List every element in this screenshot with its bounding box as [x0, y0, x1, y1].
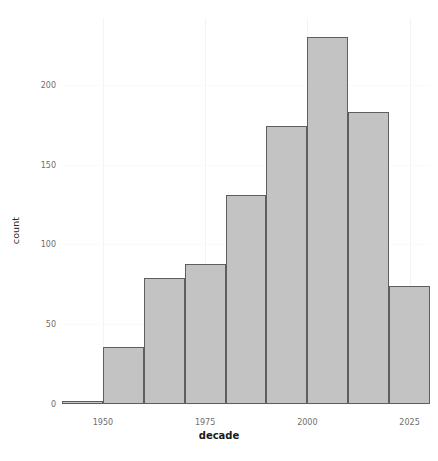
histogram-bar — [266, 126, 307, 404]
x-axis-tick-label: 1975 — [195, 418, 215, 427]
histogram-bar — [103, 347, 144, 404]
x-axis-title-label: decade — [199, 430, 240, 441]
histogram-bar — [185, 264, 226, 404]
histogram-bar — [348, 112, 389, 404]
y-axis-tick-labels: 050100150200 — [18, 0, 56, 461]
plot-panel — [62, 18, 430, 404]
histogram-chart: count 050100150200 1950197520002025 deca… — [0, 0, 438, 461]
y-axis-tick-label: 0 — [22, 400, 56, 409]
x-axis-tick-label: 2025 — [399, 418, 419, 427]
x-axis-tick-label: 1950 — [93, 418, 113, 427]
histogram-bar — [226, 195, 267, 404]
x-axis-baseline — [62, 403, 430, 404]
histogram-bar — [307, 37, 348, 404]
y-axis-tick-label: 150 — [22, 160, 56, 169]
histogram-bar — [389, 286, 430, 404]
x-axis-tick-label: 2000 — [297, 418, 317, 427]
grid-line-horizontal — [62, 85, 430, 86]
y-axis-tick-label: 50 — [22, 320, 56, 329]
x-axis-title: decade — [0, 430, 438, 441]
histogram-bar — [144, 278, 185, 404]
y-axis-tick-label: 200 — [22, 80, 56, 89]
grid-line-horizontal — [62, 404, 430, 405]
y-axis-tick-label: 100 — [22, 240, 56, 249]
